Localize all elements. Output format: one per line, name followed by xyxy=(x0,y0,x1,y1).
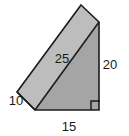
prism-diagram: 25 20 10 15 xyxy=(0,0,129,136)
dimension-label-base: 15 xyxy=(62,119,76,134)
dimension-label-depth: 10 xyxy=(9,93,23,108)
dimension-label-height: 20 xyxy=(103,57,117,72)
dimension-label-slant: 25 xyxy=(55,51,69,66)
geometry-figure-container: 25 20 10 15 xyxy=(0,0,129,136)
